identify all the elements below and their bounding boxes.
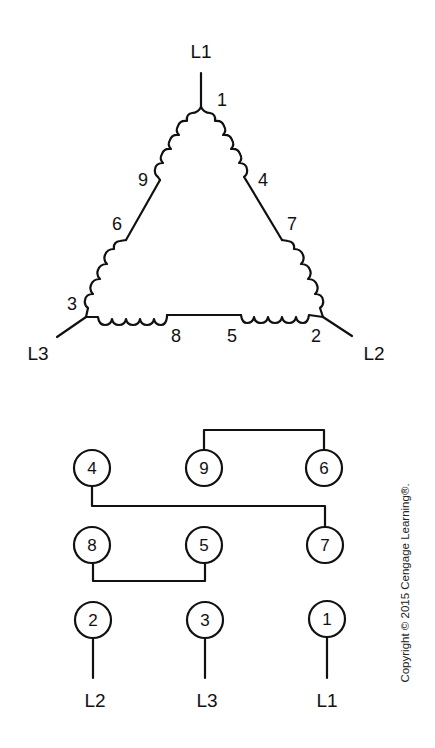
board-line-label-l1: L1 <box>316 690 337 711</box>
terminal-number: 8 <box>87 536 96 555</box>
l3-lead-wire <box>57 317 86 337</box>
jumper-4-7 <box>92 486 325 527</box>
terminal-7: 7 <box>307 527 343 563</box>
lead-label-3: 3 <box>67 294 77 314</box>
lead-label-5: 5 <box>227 326 237 346</box>
lead-label-2: 2 <box>311 326 321 346</box>
jumper-8-5 <box>93 563 205 581</box>
delta-motor-connection-diagram: L1 L3 L2 1 9 4 6 7 3 8 5 2 4 9 <box>0 0 435 748</box>
terminal-number: 4 <box>87 459 96 478</box>
lead-label-4: 4 <box>258 170 268 190</box>
coil-7-2 <box>282 240 323 317</box>
lead-label-8: 8 <box>171 326 181 346</box>
delta-winding-diagram: L1 L3 L2 1 9 4 6 7 3 8 5 2 <box>27 41 384 364</box>
lead-label-9: 9 <box>138 170 148 190</box>
terminal-1: 1 <box>309 601 345 637</box>
terminal-number: 6 <box>319 459 328 478</box>
l2-lead-wire <box>323 317 352 336</box>
terminal-number: 9 <box>199 459 208 478</box>
board-line-label-l3: L3 <box>196 690 217 711</box>
terminal-2: 2 <box>75 602 111 638</box>
line-label-l3: L3 <box>27 343 48 364</box>
coil-1-9 <box>155 107 201 180</box>
terminal-number: 5 <box>199 536 208 555</box>
terminal-4: 4 <box>74 450 110 486</box>
lead-label-1: 1 <box>217 90 227 110</box>
terminal-3: 3 <box>187 602 223 638</box>
coil-3-8 <box>86 315 167 325</box>
lead-label-6: 6 <box>112 214 122 234</box>
copyright-notice: Copyright © 2015 Cengage Learning®. <box>399 483 411 682</box>
coil-6-3 <box>85 240 126 317</box>
line-label-l2: L2 <box>363 343 384 364</box>
terminal-9: 9 <box>186 450 222 486</box>
lead-label-7: 7 <box>287 214 297 234</box>
terminal-number: 1 <box>322 610 331 629</box>
jumper-9-6 <box>204 430 324 450</box>
coil-1-4 <box>201 107 247 180</box>
terminal-number: 2 <box>88 611 97 630</box>
terminal-number: 7 <box>320 536 329 555</box>
coil-5-2 <box>241 315 323 323</box>
terminal-5: 5 <box>186 527 222 563</box>
terminal-board: 4 9 6 8 5 7 2 3 <box>74 430 345 711</box>
line-label-l1: L1 <box>190 41 211 62</box>
terminal-8: 8 <box>74 527 110 563</box>
terminal-number: 3 <box>200 611 209 630</box>
board-line-label-l2: L2 <box>84 690 105 711</box>
terminal-6: 6 <box>306 450 342 486</box>
